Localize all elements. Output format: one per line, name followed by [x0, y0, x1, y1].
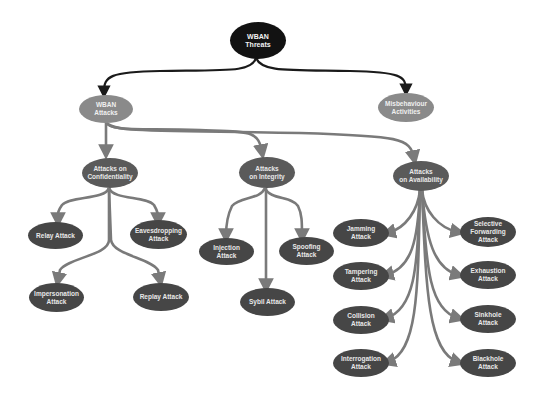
node-attacks-on-integrity: Attacks on Integrity [239, 157, 295, 188]
node-wban-attacks: WBAN Attacks [79, 95, 133, 123]
node-tampering-attack: Tampering Attack [333, 262, 389, 290]
node-attacks-on-availability: Attacks on Availability [393, 161, 449, 191]
node-spoofing-attack: Spoofing Attack [279, 237, 334, 265]
node-selective-forwarding-attack: Selective Forwarding Attack [460, 217, 516, 247]
node-jamming-attack: Jamming Attack [333, 219, 389, 247]
node-impersonation-attack: Impersonation Attack [29, 283, 84, 312]
node-attacks-on-confidentiality: Attacks on Confidentiality [82, 158, 138, 188]
node-exhaustion-attack: Exhaustion Attack [460, 261, 516, 289]
node-misbehaviour-activities: Misbehaviour Activities [378, 93, 434, 122]
connector-lines [0, 0, 543, 398]
node-sybil-attack: Sybil Attack [240, 288, 295, 316]
node-sinkhole-attack: Sinkhole Attack [460, 305, 516, 333]
node-wban-threats: WBAN Threats [230, 22, 286, 59]
node-collision-attack: Collision Attack [333, 306, 389, 334]
node-replay-attack: Replay Attack [133, 283, 189, 311]
node-relay-attack: Relay Attack [28, 222, 83, 249]
node-interrogation-attack: Interrogation Attack [333, 349, 389, 377]
node-injection-attack: Injection Attack [199, 238, 254, 265]
node-blackhole-attack: Blackhole Attack [460, 349, 516, 377]
node-eavesdropping-attack: Eavesdropping Attack [130, 220, 187, 249]
